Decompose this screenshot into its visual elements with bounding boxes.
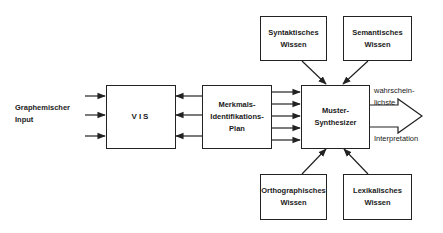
syntaktisch-line2: Wissen	[280, 39, 306, 51]
output-label-bottom: Interpretation	[374, 133, 418, 145]
syntaktisches-wissen-box: Syntaktisches Wissen	[260, 16, 327, 61]
muster-line2: Synthesizer	[314, 117, 356, 129]
muster-line1: Muster-	[322, 105, 349, 117]
lexikalisch-line2: Wissen	[364, 197, 390, 209]
output-label-top: wahrschein- lichste	[374, 85, 414, 109]
vis-label: VIS	[132, 111, 151, 123]
merkmals-identifikations-plan-box: Merkmals- Identifikations- Plan	[202, 85, 272, 149]
lexikalisches-wissen-box: Lexikalisches Wissen	[343, 174, 412, 220]
semantisch-line1: Semantisches	[352, 27, 402, 39]
muster-synthesizer-box: Muster- Synthesizer	[301, 85, 370, 149]
orthographisch-line2: Wissen	[280, 197, 306, 209]
merkmals-line1: Merkmals-	[218, 99, 255, 111]
syntaktisch-line1: Syntaktisches	[268, 27, 318, 39]
merkmals-line3: Plan	[229, 123, 245, 135]
output-label-line2: lichste	[374, 98, 395, 107]
output-label-line3: Interpretation	[374, 134, 418, 143]
input-label-line1: Graphemischer	[15, 103, 70, 112]
orthographisches-wissen-box: Orthographisches Wissen	[260, 174, 327, 220]
merkmals-line2: Identifikations-	[210, 111, 263, 123]
output-label-line1: wahrschein-	[374, 86, 414, 95]
vis-box: VIS	[106, 85, 176, 149]
semantisch-line2: Wissen	[364, 39, 390, 51]
input-label-line2: Input	[15, 115, 33, 124]
graphemic-input-label: Graphemischer Input	[15, 102, 70, 126]
semantisches-wissen-box: Semantisches Wissen	[343, 16, 412, 61]
lexikalisch-line1: Lexikalisches	[353, 185, 402, 197]
orthographisch-line1: Orthographisches	[261, 185, 326, 197]
